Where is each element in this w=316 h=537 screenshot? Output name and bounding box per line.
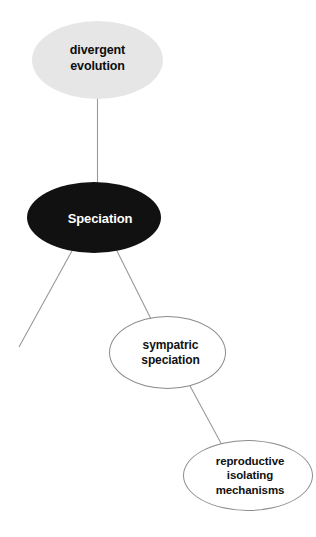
edge-speciation-unlabeled-branch bbox=[19, 249, 73, 347]
node-divergent-evolution-label: divergent evolution bbox=[70, 43, 125, 74]
concept-map-canvas: divergent evolution Speciation sympatric… bbox=[0, 0, 316, 537]
node-speciation-label: Speciation bbox=[68, 211, 133, 227]
node-reproductive-isolating-mechanisms[interactable]: reproductive isolating mechanisms bbox=[183, 440, 313, 511]
node-sympatric-speciation[interactable]: sympatric speciation bbox=[109, 316, 226, 389]
node-reproductive-isolating-mechanisms-label: reproductive isolating mechanisms bbox=[216, 454, 285, 496]
node-speciation[interactable]: Speciation bbox=[27, 182, 161, 253]
node-sympatric-speciation-label: sympatric speciation bbox=[141, 338, 199, 367]
edge-speciation-sympatric-speciation bbox=[116, 249, 152, 321]
node-divergent-evolution[interactable]: divergent evolution bbox=[32, 21, 163, 99]
edge-sympatric-speciation-reproductive-isolating-mechanisms bbox=[190, 386, 222, 445]
